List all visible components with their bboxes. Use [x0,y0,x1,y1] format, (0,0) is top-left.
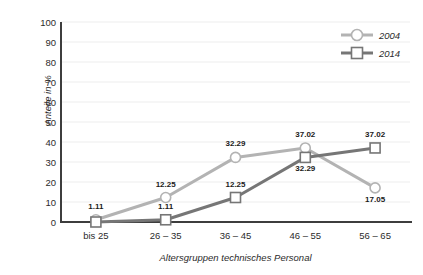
data-point-label: 12.25 [225,180,245,189]
data-point-marker [300,152,310,162]
legend-label: 2014 [379,48,400,59]
chart-legend: 20042014 [340,26,418,62]
x-tick-label: 56 – 65 [359,230,391,241]
data-point-label: 32.29 [225,139,245,148]
x-axis-tick-labels: bis 2526 – 3536 – 4546 – 5556 – 65 [61,230,410,248]
data-point-marker [231,193,241,203]
data-point-marker [370,183,380,193]
data-point-marker [370,143,380,153]
data-point-marker [300,143,310,153]
circle-marker-icon [340,27,374,43]
data-point-label: 32.29 [295,164,315,173]
data-point-marker [161,215,171,225]
data-point-label: 37.02 [295,130,315,139]
x-tick-label: 26 – 35 [150,230,182,241]
data-point-label: 17.05 [365,195,385,204]
square-marker-icon [340,45,374,61]
data-point-label: 12.25 [156,180,176,189]
x-tick-label: bis 25 [83,230,108,241]
data-point-marker [231,152,241,162]
data-point-label: 1.11 [88,202,103,211]
x-tick-label: 36 – 45 [220,230,252,241]
x-axis-title: Altersgruppen technisches Personal [61,252,410,263]
x-tick-label: 46 – 55 [289,230,321,241]
data-point-label: 1.11 [158,202,173,211]
legend-item-2014[interactable]: 2014 [340,44,418,62]
line-chart: Anteile in % 1009080706050403020100 1.11… [0,0,423,275]
data-point-label: 37.02 [365,130,385,139]
legend-item-2004[interactable]: 2004 [340,26,418,44]
data-point-marker [91,217,101,227]
legend-label: 2004 [379,30,400,41]
